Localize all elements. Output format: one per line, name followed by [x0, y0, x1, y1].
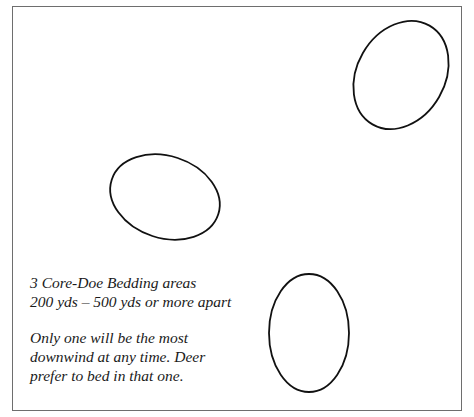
caption-line: prefer to bed in that one.	[30, 366, 205, 385]
caption-line: 3 Core-Doe Bedding areas	[30, 273, 231, 292]
caption-line: Only one will be the most	[30, 328, 205, 347]
caption-line: downwind at any time. Deer	[30, 347, 205, 366]
caption-bedding-areas: 3 Core-Doe Bedding areas 200 yds – 500 y…	[30, 273, 231, 311]
bedding-area-top-right	[334, 4, 467, 147]
caption-line: 200 yds – 500 yds or more apart	[30, 292, 231, 311]
bedding-area-bottom	[269, 274, 349, 392]
caption-downwind-note: Only one will be the most downwind at an…	[30, 328, 205, 385]
bedding-area-middle-left	[99, 141, 231, 254]
